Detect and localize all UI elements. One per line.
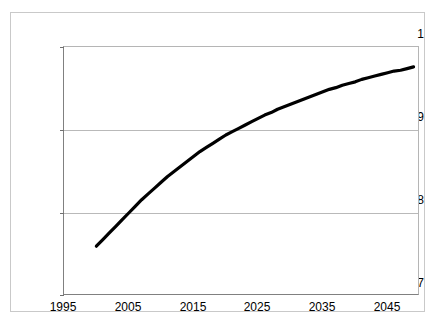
y-axis-label-1: 1 bbox=[378, 28, 424, 40]
line-chart-figure: 1 0.9 0.8 0.7 1995 2005 2015 2025 2035 2… bbox=[0, 0, 446, 332]
plot-area bbox=[63, 46, 419, 295]
data-series-line bbox=[64, 47, 420, 296]
x-axis-label-2045: 2045 bbox=[357, 301, 417, 313]
x-axis-label-2025: 2025 bbox=[227, 301, 287, 313]
x-axis-label-2035: 2035 bbox=[292, 301, 352, 313]
x-axis-label-2015: 2015 bbox=[163, 301, 223, 313]
chart-frame: 1 0.9 0.8 0.7 1995 2005 2015 2025 2035 2… bbox=[10, 12, 425, 312]
x-axis-label-2005: 2005 bbox=[98, 301, 158, 313]
x-axis-label-1995: 1995 bbox=[33, 301, 93, 313]
